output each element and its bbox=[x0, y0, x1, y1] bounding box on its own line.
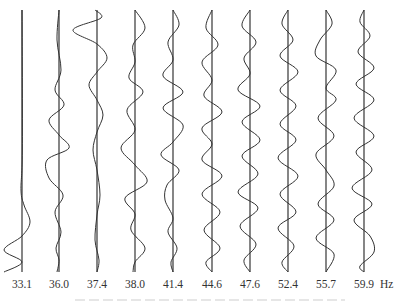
curves-group bbox=[4, 10, 375, 272]
frequency-label: 52.4 bbox=[278, 278, 298, 290]
frequency-label: 55.7 bbox=[316, 278, 336, 290]
frequency-label: 59.9 bbox=[354, 278, 374, 290]
frequency-label: 47.6 bbox=[240, 278, 260, 290]
unit-label: Hz bbox=[380, 278, 393, 290]
frequency-label: 37.4 bbox=[87, 278, 107, 290]
mode-shape-curve bbox=[73, 10, 107, 272]
axes-group bbox=[22, 10, 364, 272]
mode-shape-curve bbox=[161, 10, 183, 272]
mode-shape-curve bbox=[121, 10, 147, 272]
mode-shape-curve bbox=[45, 10, 69, 272]
frequency-label: 36.0 bbox=[49, 278, 69, 290]
caption-cropped-text bbox=[75, 299, 345, 301]
frequency-label: 33.1 bbox=[12, 278, 32, 290]
mode-shape-curve bbox=[352, 10, 375, 272]
mode-shape-plot bbox=[0, 0, 402, 305]
frequency-label: 41.4 bbox=[163, 278, 183, 290]
frequency-label: 44.6 bbox=[202, 278, 222, 290]
mode-shape-curve bbox=[4, 10, 30, 272]
frequency-label: 38.0 bbox=[125, 278, 145, 290]
figure-caption-cropped bbox=[75, 297, 345, 303]
mode-shape-curve bbox=[238, 10, 260, 272]
